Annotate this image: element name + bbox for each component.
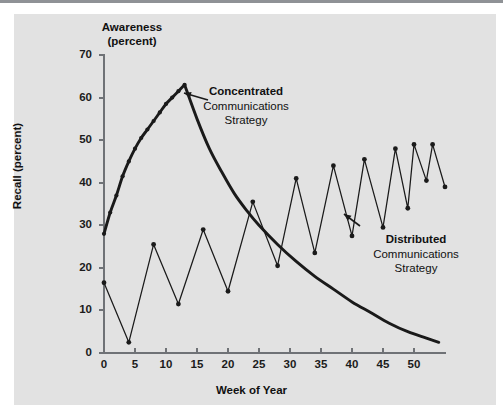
annotation-distributed-heading: Distributed bbox=[356, 232, 476, 247]
annotation-concentrated-line1: Communications bbox=[186, 99, 306, 114]
annotation-concentrated: Concentrated Communications Strategy bbox=[186, 84, 306, 128]
annotation-concentrated-heading: Concentrated bbox=[186, 84, 306, 99]
annotation-concentrated-line2: Strategy bbox=[186, 113, 306, 128]
annotation-distributed-line2: Strategy bbox=[356, 261, 476, 276]
chart-canvas bbox=[0, 0, 503, 418]
annotation-distributed-line1: Communications bbox=[356, 247, 476, 262]
arrow-distributed bbox=[344, 214, 360, 226]
annotation-distributed: Distributed Communications Strategy bbox=[356, 232, 476, 276]
